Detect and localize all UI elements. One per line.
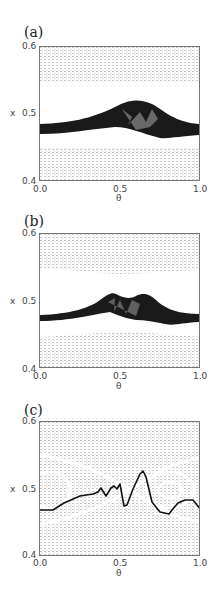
y-axis-label: x xyxy=(10,484,15,494)
panel-b: (b) 0.6 0.5 0.4 x 0.0 0.5 1.0 θ xyxy=(0,200,213,400)
y-tick: 0.5 xyxy=(22,297,36,306)
x-tick: 0.5 xyxy=(113,372,127,381)
panel-c: (c) 0.6 0.5 0.4 x 0.0 0.5 1.0 θ xyxy=(0,400,213,601)
plot-area xyxy=(39,421,200,556)
panel-label: (a) xyxy=(24,24,43,40)
y-axis-label: x xyxy=(10,296,15,306)
x-axis-label: θ xyxy=(116,568,122,578)
x-tick: 0.0 xyxy=(33,559,47,568)
panel-a: (a) 0.6 0.5 0.4 x 0.0 0.5 1.0 θ xyxy=(0,0,213,200)
plot-area xyxy=(39,233,200,368)
x-tick: 0.5 xyxy=(113,559,127,568)
y-tick: 0.5 xyxy=(22,485,36,494)
y-tick: 0.6 xyxy=(22,229,36,238)
x-tick: 0.0 xyxy=(33,185,47,194)
x-tick: 1.0 xyxy=(193,559,207,568)
x-tick: 1.0 xyxy=(193,372,207,381)
y-tick: 0.6 xyxy=(22,42,36,51)
x-tick: 0.0 xyxy=(33,372,47,381)
plot-svg xyxy=(40,47,200,181)
y-axis-label: x xyxy=(10,108,15,118)
y-tick: 0.5 xyxy=(22,109,36,118)
y-tick: 0.6 xyxy=(22,417,36,426)
plot-svg xyxy=(40,422,200,556)
panel-label: (b) xyxy=(24,213,44,229)
plot-svg xyxy=(40,234,200,368)
plot-area xyxy=(39,46,200,181)
x-axis-label: θ xyxy=(116,381,122,391)
x-tick: 1.0 xyxy=(193,185,207,194)
